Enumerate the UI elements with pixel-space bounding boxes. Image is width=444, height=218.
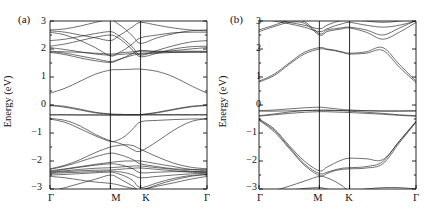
band-line <box>259 119 416 171</box>
x-axis-ticks <box>50 185 207 189</box>
band-line <box>50 118 207 151</box>
band-line <box>50 105 207 115</box>
band-line <box>50 119 207 142</box>
band-line <box>50 106 207 115</box>
band-line <box>259 49 416 83</box>
band-structure-figure: (a) Energy (eV) 3 2 1 0 −1 −2 −3 Γ M K Γ… <box>0 0 444 218</box>
y-axis-ticks <box>259 21 416 189</box>
band-line <box>259 176 416 193</box>
band-line <box>259 120 416 176</box>
band-line <box>50 69 207 93</box>
band-curves <box>259 17 416 197</box>
band-line <box>259 22 416 39</box>
panel-a: (a) Energy (eV) 3 2 1 0 −1 −2 −3 Γ M K Γ <box>0 0 222 218</box>
band-line <box>50 145 207 169</box>
band-line <box>259 120 416 174</box>
band-line <box>259 20 416 35</box>
band-line <box>50 176 207 189</box>
high-symmetry-lines <box>319 21 349 189</box>
panel-a-plot <box>0 0 222 218</box>
panel-b: (b) Energy (eV) 3 2 1 0 −1 −2 −3 Γ M K Γ <box>222 0 444 218</box>
band-line <box>50 20 207 44</box>
band-line <box>259 47 416 81</box>
band-curves <box>50 20 207 192</box>
plot-frame <box>259 21 416 189</box>
panel-b-plot <box>222 0 444 218</box>
